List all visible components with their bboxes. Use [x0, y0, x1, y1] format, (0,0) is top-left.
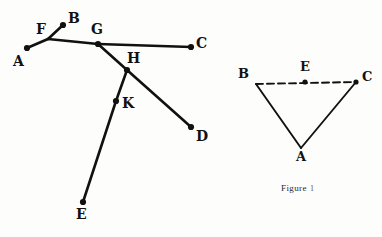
segment-b-a: [256, 84, 301, 148]
point-e-label: E: [76, 207, 87, 221]
point-b-dot: [60, 22, 66, 28]
segment-g-h: [98, 44, 127, 70]
segment-k-e: [83, 101, 116, 202]
point-k-dot: [113, 98, 119, 104]
figure-1-caption: Figure1: [281, 183, 314, 193]
point-a-label: A: [13, 54, 24, 68]
point-d-label: D: [196, 129, 208, 143]
left-figure-dots: [24, 22, 194, 205]
triangle-midpoint-e-label: E: [300, 60, 310, 73]
segment-a-f: [27, 39, 48, 48]
triangle-midpoint-e-dot: [302, 79, 307, 84]
triangle-vertex-a-label: A: [296, 150, 306, 163]
point-a-dot: [24, 45, 30, 51]
figure-caption-number: 1: [310, 184, 314, 193]
triangle-vertex-c-label: C: [362, 70, 372, 83]
point-d-dot: [188, 124, 194, 130]
segment-a-c: [301, 82, 356, 148]
right-figure-lines: [256, 82, 356, 148]
point-e-dot: [80, 199, 86, 205]
point-k-label: K: [122, 96, 134, 110]
point-h-label: H: [127, 51, 140, 65]
triangle-vertex-b-label: B: [238, 67, 249, 80]
left-figure-lines: [27, 25, 191, 202]
segment-g-c: [98, 44, 191, 47]
point-h-dot: [124, 67, 130, 73]
triangle-vertex-c-dot: [353, 79, 358, 84]
segment-f-g: [48, 39, 98, 44]
point-g-dot: [95, 41, 101, 47]
point-c-label: C: [196, 36, 207, 50]
figure-page: ABCDEFGHK ABCE Figure1: [0, 0, 382, 237]
point-f-label: F: [36, 22, 46, 36]
segment-h-d: [127, 70, 191, 127]
point-c-dot: [188, 44, 194, 50]
figures-canvas: [0, 0, 382, 237]
point-b-label: B: [68, 11, 80, 25]
figure-caption-word: Figure: [281, 183, 307, 193]
point-g-label: G: [91, 22, 103, 36]
